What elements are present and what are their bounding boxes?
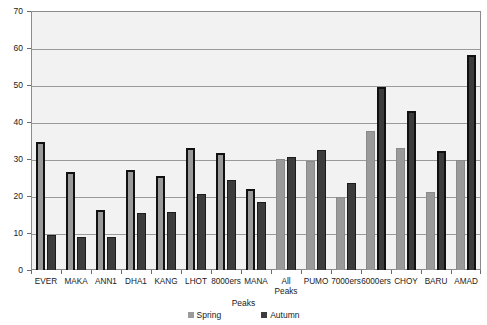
- x-tick-mark: [91, 270, 92, 274]
- x-tick-mark: [301, 270, 302, 274]
- x-tick-label: CHOY: [394, 277, 418, 287]
- x-tick-mark: [331, 270, 332, 274]
- x-tick-mark: [451, 270, 452, 274]
- bar-spring-11: [366, 131, 376, 270]
- legend-title: Peaks: [0, 298, 487, 308]
- bar-autumn-7: [257, 202, 267, 270]
- bar-autumn-1: [77, 237, 87, 270]
- x-tick-label: All Peaks: [275, 277, 298, 297]
- chart-legend: SpringAutumn: [0, 308, 487, 322]
- y-tick-label: 30: [14, 155, 23, 164]
- x-tick-mark: [271, 270, 272, 274]
- y-tick-label: 10: [14, 229, 23, 238]
- legend-item-autumn[interactable]: Autumn: [261, 310, 299, 320]
- bar-autumn-9: [317, 150, 327, 270]
- x-tick-mark: [391, 270, 392, 274]
- bar-autumn-8: [287, 157, 297, 270]
- bar-autumn-3: [137, 213, 147, 270]
- bar-autumn-4: [167, 212, 177, 270]
- bar-autumn-5: [197, 194, 207, 270]
- x-tick-mark: [361, 270, 362, 274]
- bar-autumn-11: [377, 87, 387, 270]
- x-tick-label: BARU: [425, 277, 448, 287]
- bar-autumn-13: [437, 151, 447, 271]
- x-tick-label: MANA: [244, 277, 268, 287]
- x-tick-label: AMAD: [454, 277, 478, 287]
- x-tick-label: DHA1: [125, 277, 147, 287]
- bar-spring-14: [456, 160, 466, 270]
- bar-spring-5: [186, 148, 196, 270]
- bar-spring-2: [96, 210, 106, 270]
- x-tick-label: LHOT: [185, 277, 207, 287]
- y-tick-label: 60: [14, 44, 23, 53]
- bar-autumn-2: [107, 237, 117, 270]
- x-tick-mark: [151, 270, 152, 274]
- bar-autumn-0: [47, 235, 57, 270]
- x-tick-mark: [31, 270, 32, 274]
- legend-item-spring[interactable]: Spring: [188, 310, 222, 320]
- bar-spring-12: [396, 148, 406, 270]
- y-tick-label: 50: [14, 81, 23, 90]
- legend-swatch-icon: [261, 312, 267, 318]
- bar-spring-7: [246, 189, 256, 270]
- x-tick-mark: [241, 270, 242, 274]
- y-tick-label: 70: [14, 7, 23, 16]
- x-tick-mark: [421, 270, 422, 274]
- x-tick-label: MAKA: [64, 277, 87, 287]
- x-tick-mark: [121, 270, 122, 274]
- x-tick-label: 6000ers: [361, 277, 391, 287]
- x-tick-mark: [211, 270, 212, 274]
- bar-spring-13: [426, 192, 436, 270]
- bar-chart: 010203040506070 EVERMAKAANN1DHA1KANGLHOT…: [0, 0, 487, 325]
- x-tick-label: 8000ers: [211, 277, 241, 287]
- bar-spring-6: [216, 153, 226, 270]
- bar-autumn-14: [467, 55, 477, 270]
- bar-spring-1: [66, 172, 76, 270]
- x-tick-mark: [61, 270, 62, 274]
- y-tick-label: 40: [14, 118, 23, 127]
- legend-label: Autumn: [270, 310, 299, 320]
- x-tick-mark: [480, 270, 481, 274]
- y-tick-label: 0: [18, 266, 23, 275]
- x-tick-label: PUMO: [304, 277, 329, 287]
- bar-autumn-12: [407, 111, 417, 270]
- y-tick-label: 20: [14, 192, 23, 201]
- bar-spring-4: [156, 176, 166, 270]
- x-tick-label: 7000ers: [331, 277, 361, 287]
- bars-layer: [31, 11, 481, 270]
- y-axis: 010203040506070: [0, 0, 31, 281]
- bar-spring-9: [306, 161, 316, 270]
- x-tick-mark: [181, 270, 182, 274]
- bar-autumn-10: [347, 183, 357, 270]
- bar-spring-8: [276, 159, 286, 270]
- x-tick-label: ANN1: [95, 277, 117, 287]
- bar-spring-0: [36, 142, 46, 270]
- bar-spring-10: [336, 197, 346, 270]
- x-tick-label: EVER: [35, 277, 57, 287]
- bar-spring-3: [126, 170, 136, 270]
- x-tick-label: KANG: [154, 277, 177, 287]
- legend-label: Spring: [197, 310, 222, 320]
- legend-swatch-icon: [188, 312, 194, 318]
- bar-autumn-6: [227, 180, 237, 270]
